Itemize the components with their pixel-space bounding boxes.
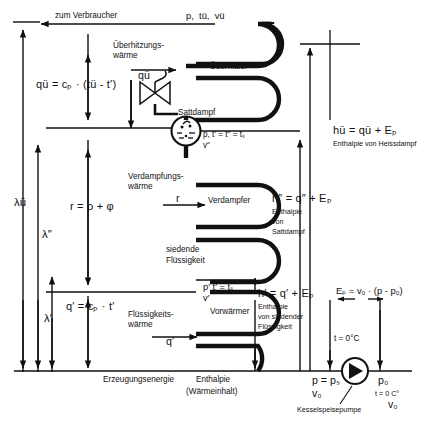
evap-heat-label-2: wärme <box>128 182 153 191</box>
liquid-heat-symbol: q′ <box>166 336 174 348</box>
liquid-heat-label-2: wärme <box>128 320 153 329</box>
superheater-coil-top <box>196 24 282 64</box>
boiling-liquid-label-2: Flüssigkeit <box>166 256 205 265</box>
superheat-heat-symbol: qü <box>138 70 150 82</box>
consumer-label: zum Verbraucher <box>55 11 117 20</box>
pump-outlet-state-1: p₀ <box>378 375 388 387</box>
pump-outlet-state-2: t = 0 C° <box>375 390 399 398</box>
evaporation-formula: r = ρ + φ <box>70 200 114 212</box>
h-superheat-caption: Enthalpie von Heissdampf <box>333 140 417 148</box>
baseline-center-label-1: Enthalpie <box>196 375 230 384</box>
h-superheat-formula: hü = qü + Eₚ <box>333 124 397 136</box>
evap-heat-label-1: Verdampfungs- <box>128 172 184 181</box>
lambda-sat-label: λ″ <box>42 228 52 241</box>
superheat-heat-label-2: wärme <box>113 51 138 60</box>
boiling-liquid-label-1: siedende <box>166 245 199 254</box>
superheat-heat-label-1: Überhitzungs- <box>113 41 164 50</box>
h-sat-caption-1: Enthalpie <box>272 208 302 216</box>
h-liquid-caption-3: Flüssigkeit <box>258 323 292 331</box>
pump-work-formula: Eₚ = v₀ · (p - p₀) <box>336 286 403 297</box>
superheater-label: Überhitzer <box>210 62 248 71</box>
pump-inlet-state-1: p = pₛ <box>312 375 340 387</box>
h-sat-formula: h″ = q″ + Eₚ <box>272 192 332 204</box>
superheat-formula: qü = cₚ · (tü - t′) <box>36 78 116 90</box>
pump-inlet-state-2: v₀ <box>312 388 322 400</box>
pump-label: Kesselspeisepumpe <box>297 406 361 414</box>
feed-state-line-2: v′ <box>203 293 209 304</box>
h-sat-caption-3: Sattdampf <box>272 228 305 236</box>
h-sat-caption-2: von <box>272 218 284 226</box>
evap-heat-symbol: r <box>176 193 180 205</box>
h-liquid-caption-1: Enthalpie <box>258 303 288 311</box>
liquid-formula: q′ = cₚ · t′ <box>66 300 115 312</box>
baseline-center-label-2: (Wärmeinhalt) <box>186 387 237 396</box>
superheated-state-label: p, tü, vü <box>186 11 225 22</box>
drum-state-line-2: v″ <box>203 141 210 150</box>
liquid-heat-label-1: Flüssigkeits- <box>128 310 174 319</box>
h-liquid-caption-2: von siedender <box>258 313 303 321</box>
drum-state-line-1: p, t′ = t″ = tₛ <box>203 130 245 139</box>
steam-enthalpy-diagram: zum Verbraucher p, tü, vü Überhitzungs- … <box>0 0 430 425</box>
feed-state-line-1: p′ t′ = tₛ <box>203 282 233 293</box>
pump-leader-line <box>340 386 352 404</box>
lambda-superheat-label: λü <box>14 196 26 209</box>
h-liquid-formula: h′ = q′ + Eₚ <box>258 287 314 299</box>
pump-outlet-state-3: v₀ <box>388 399 398 411</box>
lambda-liquid-label: λ′ <box>44 312 52 325</box>
evaporator-label: Verdampfer <box>208 196 250 205</box>
drum-label: Sattdampf <box>178 108 215 117</box>
zero-temp-label: t = 0°C <box>334 334 359 343</box>
baseline-left-label: Erzeugungsenergie <box>103 375 174 384</box>
preheater-label: Vorwärmer <box>210 307 250 316</box>
